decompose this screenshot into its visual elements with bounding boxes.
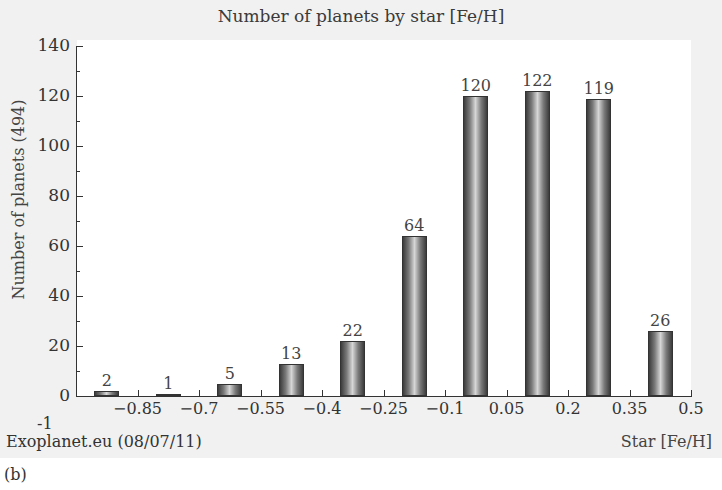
bar-value-label: 5 [210, 364, 250, 383]
x-tick [384, 390, 385, 396]
x-tick [261, 390, 262, 396]
y-tick-label: 0 [30, 385, 70, 405]
bar-value-label: 1 [148, 374, 188, 393]
bar-value-label: 122 [517, 71, 557, 90]
x-axis-line [76, 396, 692, 397]
bar-value-label: 64 [394, 216, 434, 235]
bar-value-label: 119 [579, 79, 619, 98]
x-tick [138, 390, 139, 396]
bar-value-label: 26 [640, 311, 680, 330]
y-tick [76, 171, 80, 172]
y-extra-label: -1 [37, 414, 53, 433]
y-tick [76, 121, 80, 122]
x-axis-label: Star [Fe/H] [621, 432, 712, 451]
x-tick [630, 390, 631, 396]
x-tick-label: −0.55 [231, 399, 291, 418]
y-tick-label: 40 [30, 285, 70, 305]
x-tick [507, 390, 508, 396]
y-tick [76, 71, 80, 72]
histogram-bar [279, 364, 304, 397]
source-note: Exoplanet.eu (08/07/11) [6, 432, 202, 451]
y-axis-label: Number of planets (494) [9, 140, 28, 300]
x-tick-label: 0.2 [538, 399, 598, 418]
y-tick [76, 46, 83, 47]
y-tick [76, 96, 83, 97]
x-tick [445, 390, 446, 396]
x-tick-label: 0.5 [661, 399, 721, 418]
y-tick [76, 221, 80, 222]
x-tick-label: −0.7 [169, 399, 229, 418]
chart-title: Number of planets by star [Fe/H] [0, 6, 722, 26]
histogram-bar [94, 391, 119, 396]
x-tick [691, 390, 692, 396]
histogram-bar [402, 236, 427, 396]
y-tick [76, 146, 83, 147]
x-tick-label: −0.25 [354, 399, 414, 418]
x-tick [199, 390, 200, 396]
x-tick-label: −0.85 [108, 399, 168, 418]
x-tick [322, 390, 323, 396]
y-tick [76, 346, 83, 347]
y-tick [76, 271, 80, 272]
histogram-bar [648, 331, 673, 396]
y-tick-label: 20 [30, 335, 70, 355]
x-tick-label: −0.1 [415, 399, 475, 418]
y-tick [76, 296, 83, 297]
y-tick [76, 396, 83, 397]
y-tick [76, 371, 80, 372]
y-tick-label: 120 [30, 85, 70, 105]
y-tick-label: 100 [30, 135, 70, 155]
histogram-bar [217, 384, 242, 397]
bar-value-label: 13 [271, 344, 311, 363]
y-tick-label: 80 [30, 185, 70, 205]
x-tick-label: 0.05 [477, 399, 537, 418]
histogram-bar [463, 96, 488, 396]
y-tick [76, 196, 83, 197]
y-tick-label: 60 [30, 235, 70, 255]
y-tick [76, 321, 80, 322]
histogram-bar [156, 394, 181, 397]
x-tick-label: 0.35 [600, 399, 660, 418]
bar-value-label: 120 [456, 76, 496, 95]
y-tick-label: 140 [30, 35, 70, 55]
histogram-bar [525, 91, 550, 396]
histogram-bar [586, 99, 611, 397]
histogram-bar [340, 341, 365, 396]
bar-value-label: 2 [87, 371, 127, 390]
bar-value-label: 22 [333, 321, 373, 340]
x-tick-label: −0.4 [292, 399, 352, 418]
x-tick [568, 390, 569, 396]
panel-caption: (b) [4, 465, 27, 484]
y-tick [76, 246, 83, 247]
